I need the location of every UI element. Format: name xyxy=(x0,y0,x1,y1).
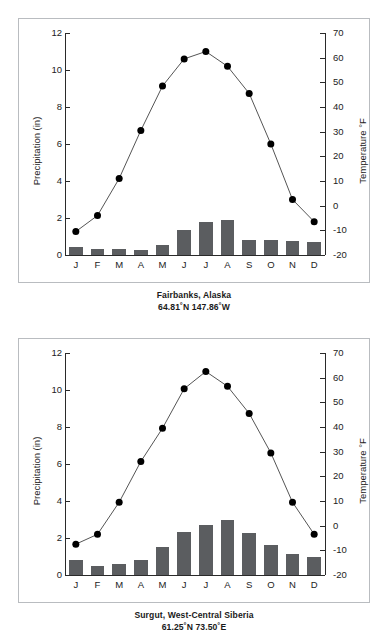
y-axis-right-tick-label: 60 xyxy=(333,53,344,63)
temperature-point-marker xyxy=(72,541,79,548)
y-axis-right-tick-label: 60 xyxy=(333,373,344,383)
y-axis-right-tick-label: -10 xyxy=(333,545,347,555)
x-axis-month-label: F xyxy=(95,259,101,270)
caption-coordinates: 61.25˚N 73.50˚E xyxy=(0,622,388,634)
temperature-point-marker xyxy=(246,90,253,97)
temperature-point-marker xyxy=(224,383,231,390)
temperature-point-marker xyxy=(116,175,123,182)
y-axis-left-tick-label: 6 xyxy=(57,139,62,149)
temperature-point-marker xyxy=(94,531,101,538)
y-axis-right-tick-label: 30 xyxy=(333,447,344,457)
y-axis-right-tick-label: 30 xyxy=(333,127,344,137)
y-axis-right-title: Temperature °F xyxy=(357,438,368,504)
y-axis-right-tick-label: 10 xyxy=(333,496,344,506)
x-axis-month-label: J xyxy=(73,259,78,270)
x-axis-month-label: N xyxy=(289,579,296,590)
plot-area: 024681012-20-10010203040506070 xyxy=(65,33,325,255)
y-axis-right-tick xyxy=(320,575,325,576)
climate-panel-fairbanks: 024681012-20-10010203040506070 JFMAMJJAS… xyxy=(0,0,388,320)
panel-caption: Fairbanks, Alaska 64.81˚N 147.86˚W xyxy=(0,290,388,313)
panel-caption: Surgut, West-Central Siberia 61.25˚N 73.… xyxy=(0,610,388,633)
chart-frame: 024681012-20-10010203040506070 JFMAMJJAS… xyxy=(18,338,370,603)
y-axis-left-tick-label: 6 xyxy=(57,459,62,469)
caption-location: Surgut, West-Central Siberia xyxy=(134,610,253,620)
x-axis-month-label: F xyxy=(95,579,101,590)
y-axis-right-tick-label: -20 xyxy=(333,570,347,580)
y-axis-right-tick-label: -10 xyxy=(333,225,347,235)
temperature-point-marker xyxy=(94,212,101,219)
temperature-line xyxy=(76,372,314,545)
chart-frame: 024681012-20-10010203040506070 JFMAMJJAS… xyxy=(18,18,370,283)
y-axis-left-title: Precipitation (in) xyxy=(31,436,42,505)
x-axis-month-label: J xyxy=(73,579,78,590)
y-axis-left-title: Precipitation (in) xyxy=(31,116,42,185)
plot-area: 024681012-20-10010203040506070 xyxy=(65,353,325,575)
y-axis-right-line xyxy=(325,353,326,575)
y-axis-left-tick-label: 8 xyxy=(57,102,62,112)
caption-location: Fairbanks, Alaska xyxy=(157,290,231,300)
x-axis-line xyxy=(65,255,325,256)
y-axis-left-tick-label: 12 xyxy=(51,28,62,38)
x-axis-month-label: D xyxy=(311,259,318,270)
temperature-line-chart xyxy=(65,33,325,255)
temperature-point-marker xyxy=(181,55,188,62)
y-axis-left-tick-label: 10 xyxy=(51,385,62,395)
x-axis-month-label: M xyxy=(115,579,123,590)
y-axis-right-title: Temperature °F xyxy=(357,118,368,184)
x-axis-month-label: A xyxy=(138,259,144,270)
caption-coordinates: 64.81˚N 147.86˚W xyxy=(0,302,388,314)
y-axis-right-tick-label: 40 xyxy=(333,422,344,432)
y-axis-right-tick-label: 50 xyxy=(333,77,344,87)
y-axis-left-tick-label: 12 xyxy=(51,348,62,358)
temperature-point-marker xyxy=(137,127,144,134)
temperature-line xyxy=(76,52,314,232)
temperature-point-marker xyxy=(159,425,166,432)
x-axis-month-label: J xyxy=(182,579,187,590)
temperature-point-marker xyxy=(246,410,253,417)
x-axis-month-label: J xyxy=(203,579,208,590)
y-axis-right-tick-label: 10 xyxy=(333,176,344,186)
y-axis-left-tick-label: 10 xyxy=(51,65,62,75)
temperature-point-marker xyxy=(267,449,274,456)
temperature-point-marker xyxy=(311,218,318,225)
y-axis-right-tick xyxy=(320,255,325,256)
y-axis-left-tick-label: 4 xyxy=(57,496,62,506)
temperature-point-marker xyxy=(311,531,318,538)
temperature-point-marker xyxy=(202,368,209,375)
y-axis-right-line xyxy=(325,33,326,255)
temperature-point-marker xyxy=(159,83,166,90)
temperature-point-marker xyxy=(289,196,296,203)
y-axis-right-tick-label: -20 xyxy=(333,250,347,260)
temperature-point-marker xyxy=(289,499,296,506)
temperature-point-marker xyxy=(181,385,188,392)
y-axis-left-tick-label: 2 xyxy=(57,213,62,223)
y-axis-right-tick-label: 20 xyxy=(333,471,344,481)
y-axis-left-tick xyxy=(65,575,70,576)
x-axis-month-label: O xyxy=(267,259,274,270)
temperature-point-marker xyxy=(267,141,274,148)
temperature-point-marker xyxy=(224,63,231,70)
climate-panel-surgut: 024681012-20-10010203040506070 JFMAMJJAS… xyxy=(0,320,388,640)
temperature-point-marker xyxy=(202,48,209,55)
y-axis-right-tick-label: 70 xyxy=(333,28,344,38)
x-axis-month-label: A xyxy=(224,579,230,590)
x-axis-month-label: J xyxy=(182,259,187,270)
temperature-point-marker xyxy=(137,458,144,465)
y-axis-left-tick-label: 8 xyxy=(57,422,62,432)
x-axis-month-label: N xyxy=(289,259,296,270)
y-axis-right-tick-label: 0 xyxy=(333,201,338,211)
x-axis-month-label: J xyxy=(203,259,208,270)
x-axis-month-label: M xyxy=(115,259,123,270)
temperature-point-marker xyxy=(72,228,79,235)
y-axis-left-tick xyxy=(65,255,70,256)
y-axis-right-tick-label: 20 xyxy=(333,151,344,161)
climate-charts-figure: 024681012-20-10010203040506070 JFMAMJJAS… xyxy=(0,0,388,641)
y-axis-right-tick-label: 0 xyxy=(333,521,338,531)
y-axis-left-tick-label: 0 xyxy=(57,250,62,260)
x-axis-month-labels: JFMAMJJASOND xyxy=(65,259,325,273)
x-axis-line xyxy=(65,575,325,576)
x-axis-month-label: D xyxy=(311,579,318,590)
y-axis-left-tick-label: 2 xyxy=(57,533,62,543)
x-axis-month-label: S xyxy=(246,579,252,590)
y-axis-left-tick-label: 4 xyxy=(57,176,62,186)
